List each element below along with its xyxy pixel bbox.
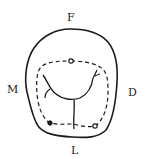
mesial-groove-branch	[45, 89, 50, 98]
marginal-ridge-outline	[37, 61, 108, 127]
distal-pit	[93, 124, 97, 128]
facial-pit	[69, 59, 73, 63]
crown-outline	[26, 29, 118, 137]
label-distal: D	[128, 87, 137, 98]
label-facial: F	[67, 12, 75, 23]
lingual-groove	[74, 100, 75, 129]
tooth-diagram: F M D L	[0, 0, 145, 159]
label-lingual: L	[71, 145, 78, 156]
central-groove	[43, 75, 93, 99]
distal-groove-branch	[93, 70, 100, 78]
label-mesial: M	[7, 84, 18, 95]
mesial-pit	[48, 121, 52, 125]
